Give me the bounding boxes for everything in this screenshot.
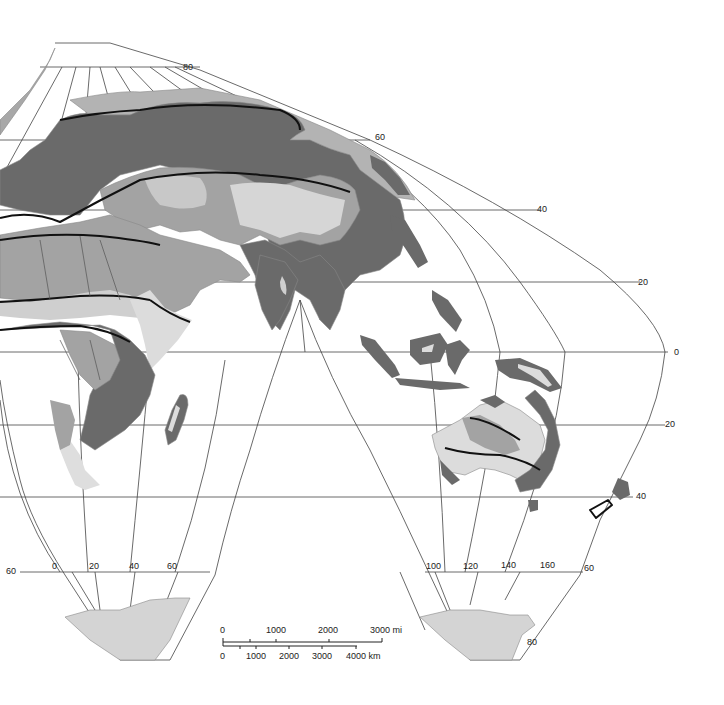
lat-label-20s: 20 [665,419,675,429]
lat-label-60n: 60 [375,132,385,142]
region-antarctica-left [65,598,190,660]
region-tasmania [528,500,538,512]
lon-label-60: 60 [167,561,177,571]
scale-km-1000: 1000 [246,651,266,661]
lat-label-80s: 80 [527,637,537,647]
scale-km-3000: 3000 [312,651,332,661]
region-greenland [0,48,55,135]
region-madagascar [165,394,188,445]
lon-label-20: 20 [89,561,99,571]
world-map: 80 60 40 20 0 20 40 60 60 80 0 20 40 60 … [0,0,724,705]
lat-label-60s-right: 60 [584,563,594,573]
region-sumatra [360,335,400,378]
lon-label-140: 140 [501,560,516,570]
scale-km-2000: 2000 [279,651,299,661]
lat-label-60s-left: 60 [6,566,16,576]
region-antarctica-right [420,610,535,660]
scale-km-4000: 4000 km [346,651,381,661]
longitude-labels: 0 20 40 60 100 120 140 160 [52,560,555,571]
scale-mi-1000: 1000 [266,625,286,635]
region-sulawesi [445,340,470,375]
scale-mi-2000: 2000 [318,625,338,635]
lat-label-20n: 20 [638,277,648,287]
scale-bar: 0 1000 2000 3000 mi 0 1000 2000 3000 400… [220,625,402,661]
lat-label-equator: 0 [674,347,679,357]
scale-mi-3000: 3000 mi [370,625,402,635]
lon-label-120: 120 [463,561,478,571]
lon-label-100: 100 [426,561,441,571]
lat-label-40n: 40 [537,204,547,214]
region-new-guinea [495,358,562,392]
lat-label-80n: 80 [183,62,193,72]
scale-mi-0: 0 [220,625,225,635]
region-philippines [432,290,462,332]
lon-label-160: 160 [540,560,555,570]
lon-label-40: 40 [129,561,139,571]
scale-km-0: 0 [220,651,225,661]
lon-label-0: 0 [52,561,57,571]
lat-label-40s: 40 [636,491,646,501]
